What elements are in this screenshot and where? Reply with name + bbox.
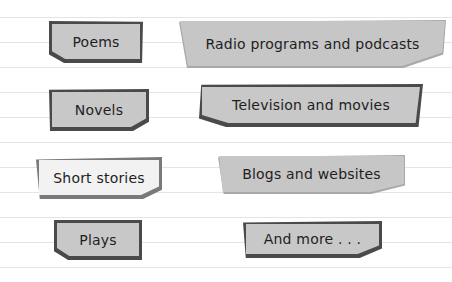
tag-television-movies: Television and movies <box>199 84 423 127</box>
tag-blogs-websites: Blogs and websites <box>218 155 405 194</box>
tag-label: Television and movies <box>202 87 420 123</box>
ruled-line <box>0 267 452 268</box>
ruled-line <box>0 217 452 218</box>
tag-novels: Novels <box>49 89 149 131</box>
tag-and-more: And more . . . <box>243 221 382 258</box>
tag-label: Novels <box>52 92 146 127</box>
tag-label: And more . . . <box>246 224 379 254</box>
tag-plays: Plays <box>54 220 142 260</box>
tag-label: Blogs and websites <box>219 156 404 192</box>
tag-short-stories: Short stories <box>36 157 162 199</box>
tag-label: Radio programs and podcasts <box>180 21 445 66</box>
tag-label: Poems <box>52 24 140 59</box>
ruled-line <box>0 17 452 18</box>
tag-label: Short stories <box>39 160 159 195</box>
tag-label: Plays <box>57 223 139 256</box>
tag-radio-podcasts: Radio programs and podcasts <box>179 20 446 68</box>
tag-poems: Poems <box>49 21 143 63</box>
ruled-line <box>0 142 452 143</box>
